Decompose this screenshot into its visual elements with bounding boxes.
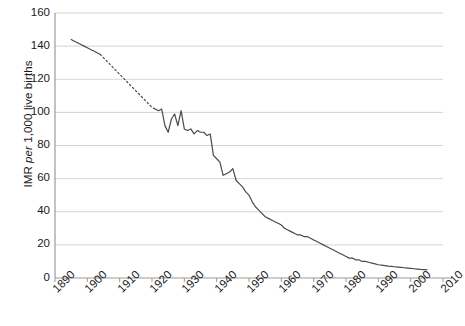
series-line: [100, 54, 155, 109]
gridlines: [55, 13, 443, 245]
series-line: [155, 109, 427, 270]
data-series: [71, 40, 427, 270]
series-line: [71, 40, 100, 55]
